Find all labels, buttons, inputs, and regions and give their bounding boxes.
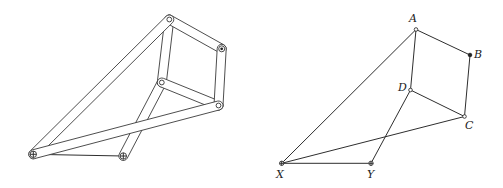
point-label-A: A [408, 12, 417, 25]
point-label-Y: Y [367, 168, 376, 181]
segment-BC [465, 55, 471, 117]
segment-XC [282, 117, 465, 164]
physical-linkage-drawing [29, 15, 226, 160]
pivot-D-icon [159, 80, 164, 85]
point-label-X: X [275, 168, 285, 181]
point-C-icon [463, 115, 467, 119]
bar-BC [214, 44, 226, 110]
pivot-B-icon [219, 46, 225, 52]
point-label-C: C [465, 119, 474, 132]
point-B-icon [468, 53, 472, 57]
point-D-icon [409, 88, 413, 92]
point-X-icon [280, 161, 284, 165]
point-label-B: B [473, 48, 482, 61]
linkage-figure: ABCDXY [0, 0, 503, 188]
segment-DC [411, 90, 465, 117]
schematic-linkage-diagram: ABCDXY [275, 12, 482, 181]
pivot-X-icon [30, 151, 36, 157]
point-Y-icon [369, 161, 373, 165]
segment-XA [282, 30, 416, 164]
pivot-C-icon [216, 103, 221, 108]
point-label-D: D [397, 81, 407, 94]
segment-AB [416, 30, 470, 56]
point-A-icon [414, 28, 418, 32]
pivot-Y-icon [120, 153, 126, 159]
segment-AD [411, 30, 417, 91]
pivot-A-icon [167, 17, 172, 22]
segment-YD [371, 90, 411, 163]
